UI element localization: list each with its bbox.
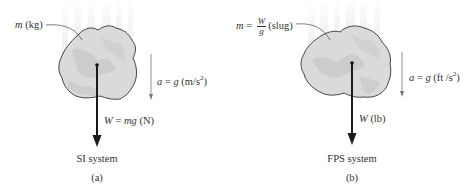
mass-eq-b: = (244, 20, 255, 31)
weight-label-a: W = mg (N) (104, 116, 154, 127)
weight-label-b: W (lb) (359, 114, 386, 125)
weight-symbol-a: W (104, 115, 113, 126)
mass-label-a: m (kg) (15, 20, 43, 31)
caption-a: (a) (47, 172, 147, 183)
system-label-a: SI system (47, 153, 147, 164)
weight-unit-b: (lb) (368, 113, 386, 124)
mass-unit-b: (slug) (268, 20, 293, 31)
accel-unit-a: (m/s (179, 76, 200, 87)
panel-b-graphic (296, 0, 404, 145)
system-label-b: FPS system (302, 153, 402, 164)
weight-arrowhead-b (348, 133, 357, 145)
accel-label-b: a = g (ft /s2) (409, 71, 460, 83)
accel-eq-b: = (414, 72, 425, 83)
caption-b: (b) (302, 172, 402, 183)
accel-arrowhead-b (400, 91, 404, 97)
accel-arrowhead-a (149, 94, 153, 100)
accel-eq-a: = (162, 76, 173, 87)
accel-unit-b: (ft /s (431, 72, 453, 83)
weight-unit-a: (N) (137, 115, 154, 126)
mass-unit-a: (kg) (25, 19, 43, 30)
accel-label-a: a = g (m/s2) (157, 75, 207, 87)
accel-unit-close-b: ) (456, 72, 460, 83)
mass-label-b: m = Wg(slug) (236, 17, 293, 36)
mass-fraction-b: Wg (257, 17, 267, 36)
mass-symbol-a: m (15, 19, 23, 30)
accel-unit-close-a: ) (203, 76, 207, 87)
weight-arrowhead-a (93, 135, 102, 147)
weight-expr-a: mg (124, 115, 137, 126)
fraction-denominator: g (257, 27, 267, 36)
mass-symbol-b: m (236, 20, 244, 31)
weight-symbol-b: W (359, 113, 368, 124)
weight-eq-a: = (113, 115, 124, 126)
